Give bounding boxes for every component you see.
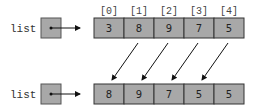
index-label: [0] <box>100 6 118 17</box>
cell-value: 5 <box>226 89 232 100</box>
cell-value: 7 <box>196 23 202 34</box>
top-array: 3 8 9 7 5 <box>94 18 244 38</box>
top-index-labels: [0] [1] [2] [3] [4] <box>100 6 238 17</box>
cell-value: 5 <box>226 23 232 34</box>
index-label: [4] <box>220 6 238 17</box>
index-label: [1] <box>130 6 148 17</box>
bottom-row: list 8 9 7 5 5 <box>10 84 244 104</box>
cell-value: 3 <box>106 23 112 34</box>
shift-arrow-icon <box>142 43 168 80</box>
bottom-variable-label: list <box>10 89 36 101</box>
cell-value: 9 <box>136 89 142 100</box>
shift-arrow-icon <box>202 43 228 80</box>
cell-value: 5 <box>196 89 202 100</box>
shift-arrow-icon <box>112 43 138 80</box>
index-label: [2] <box>160 6 178 17</box>
cell-value: 8 <box>136 23 142 34</box>
cell-value: 8 <box>106 89 112 100</box>
index-label: [3] <box>190 6 208 17</box>
array-shift-diagram: list [0] [1] [2] [3] [4] 3 8 9 7 5 <box>0 0 258 110</box>
top-row: list [0] [1] [2] [3] [4] 3 8 9 7 5 <box>10 6 244 38</box>
top-variable-label: list <box>10 23 36 35</box>
bottom-array: 8 9 7 5 5 <box>94 84 244 104</box>
shift-arrows <box>112 43 228 80</box>
cell-value: 7 <box>166 89 172 100</box>
cell-value: 9 <box>166 23 172 34</box>
shift-arrow-icon <box>172 43 198 80</box>
